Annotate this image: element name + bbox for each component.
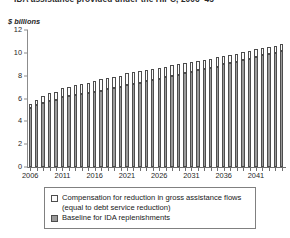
bar-2033 (203, 60, 206, 167)
y-tick-mark-10 (24, 52, 28, 53)
bar-2015 (87, 83, 90, 167)
bar-2040 (248, 51, 251, 167)
bar-segment-baseline (170, 76, 173, 167)
legend-item-baseline: Baseline for IDA replenishments (51, 213, 249, 223)
x-tick-mark-2024 (146, 167, 147, 171)
bar-2042 (261, 48, 264, 167)
x-tick-mark-2019 (114, 167, 115, 171)
bar-2014 (80, 84, 83, 167)
bar-2018 (106, 78, 109, 167)
bar-segment-baseline (61, 97, 64, 167)
bar-segment-compensation (254, 49, 257, 57)
x-tick-mark-2033 (204, 167, 205, 171)
bar-segment-baseline (87, 93, 90, 167)
x-tick-label-2036: 2036 (215, 172, 231, 179)
bar-2008 (41, 96, 44, 167)
bar-segment-baseline (261, 55, 264, 167)
bar-segment-baseline (93, 92, 96, 167)
bar-2012 (67, 87, 70, 167)
bar-segment-baseline (196, 70, 199, 167)
x-tick-label-2021: 2021 (119, 172, 135, 179)
bar-2006 (29, 104, 32, 167)
bar-2032 (196, 61, 199, 167)
bar-2031 (190, 62, 193, 167)
legend-item-compensation: Compensation for reduction in gross assi… (51, 193, 249, 212)
bar-segment-compensation (280, 44, 283, 51)
bar-2009 (48, 93, 51, 167)
x-tick-mark-2014 (82, 167, 83, 171)
bar-segment-baseline (254, 57, 257, 167)
x-tick-mark-2009 (50, 167, 51, 171)
x-tick-mark-2045 (282, 167, 283, 171)
bar-2013 (74, 85, 77, 167)
x-tick-mark-2029 (179, 167, 180, 171)
bar-segment-compensation (241, 52, 244, 60)
x-tick-label-2011: 2011 (55, 172, 71, 179)
bar-segment-baseline (29, 108, 32, 167)
bar-segment-compensation (67, 87, 70, 96)
bar-segment-baseline (190, 72, 193, 167)
bar-segment-compensation (132, 72, 135, 83)
bar-segment-compensation (177, 64, 180, 74)
bar-segment-compensation (125, 73, 128, 84)
x-tick-label-2006: 2006 (22, 172, 38, 179)
bar-segment-baseline (54, 100, 57, 167)
bar-2029 (177, 64, 180, 167)
bar-2045 (280, 44, 283, 167)
bar-2011 (61, 88, 64, 167)
bar-segment-compensation (74, 85, 77, 95)
bar-segment-compensation (158, 68, 161, 79)
bar-segment-baseline (80, 94, 83, 167)
bar-segment-compensation (196, 61, 199, 70)
bar-segment-baseline (241, 60, 244, 167)
bar-segment-compensation (235, 54, 238, 62)
y-tick-mark-0 (24, 167, 28, 168)
baseline-swatch-icon (51, 215, 58, 222)
bar-segment-baseline (99, 91, 102, 167)
x-tick-mark-2038 (237, 167, 238, 171)
bar-segment-baseline (228, 63, 231, 167)
bar-segment-baseline (35, 105, 38, 167)
bar-segment-baseline (112, 88, 115, 167)
bar-segment-baseline (151, 80, 154, 167)
y-tick-mark-2 (24, 144, 28, 145)
bar-segment-compensation (170, 65, 173, 75)
bar-segment-compensation (183, 63, 186, 73)
bar-segment-compensation (228, 55, 231, 63)
bar-segment-compensation (80, 84, 83, 94)
bar-segment-compensation (54, 92, 57, 100)
bar-segment-compensation (209, 59, 212, 68)
bar-segment-baseline (138, 83, 141, 167)
x-tick-mark-2008 (43, 167, 44, 171)
bar-segment-compensation (274, 46, 277, 53)
x-tick-label-2016: 2016 (86, 172, 102, 179)
bar-2041 (254, 49, 257, 167)
y-tick-label-6: 6 (0, 95, 22, 102)
x-tick-mark-2043 (269, 167, 270, 171)
x-tick-mark-2023 (140, 167, 141, 171)
x-tick-mark-2013 (75, 167, 76, 171)
y-tick-label-12: 12 (0, 26, 22, 33)
y-tick-label-4: 4 (0, 118, 22, 125)
bar-segment-compensation (145, 70, 148, 81)
x-tick-mark-2034 (211, 167, 212, 171)
x-tick-mark-2018 (108, 167, 109, 171)
bar-segment-compensation (106, 78, 109, 89)
bar-segment-compensation (99, 79, 102, 90)
bar-segment-compensation (93, 81, 96, 91)
plot-area (27, 30, 285, 167)
bar-2022 (132, 72, 135, 167)
bar-segment-compensation (119, 76, 122, 87)
bar-2030 (183, 63, 186, 167)
y-tick-label-0: 0 (0, 163, 22, 170)
x-tick-label-2041: 2041 (248, 172, 264, 179)
bar-2044 (274, 46, 277, 167)
bar-segment-baseline (106, 89, 109, 167)
x-tick-mark-2044 (275, 167, 276, 171)
bar-segment-baseline (222, 64, 225, 167)
y-tick-mark-6 (24, 98, 28, 99)
legend-label-baseline: Baseline for IDA replenishments (62, 213, 170, 223)
x-axis-line (27, 167, 286, 168)
bar-2028 (170, 65, 173, 167)
bar-2034 (209, 59, 212, 167)
